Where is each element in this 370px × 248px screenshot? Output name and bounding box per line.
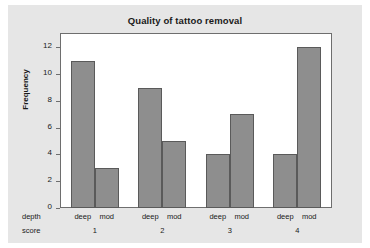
chart-title: Quality of tattoo removal [8,15,362,26]
x-group-label: 4 [277,226,317,235]
y-tick-label: 6 [48,122,52,131]
y-tick-mark [56,47,60,48]
y-tick-mark [56,74,60,75]
bar [206,154,230,208]
x-sublabel: deep [138,212,162,221]
bar [273,154,297,208]
x-sublabel: deep [206,212,230,221]
y-tick-label: 4 [48,148,52,157]
x-sublabel: mod [230,212,254,221]
y-tick-mark [56,208,60,209]
x-group-label: 2 [142,226,182,235]
y-tick: 8 [8,101,60,102]
bar [95,168,119,208]
y-tick-mark [56,128,60,129]
y-tick: 4 [8,154,60,155]
x-group-label: 3 [210,226,250,235]
chart-figure: Quality of tattoo removal Frequency 0246… [8,5,362,243]
bar [297,47,321,208]
row-header-score: score [22,226,40,235]
y-tick-label: 2 [48,175,52,184]
y-tick: 10 [8,74,60,75]
y-tick-mark [56,154,60,155]
row-header-depth: depth [22,212,41,221]
x-group-label: 1 [75,226,115,235]
bar [138,88,162,208]
y-tick-mark [56,101,60,102]
plot-area [61,34,331,208]
x-sublabel: deep [273,212,297,221]
x-sublabel: deep [71,212,95,221]
y-tick: 12 [8,47,60,48]
bar [162,141,186,208]
x-sublabel: mod [162,212,186,221]
x-sublabel: mod [95,212,119,221]
y-tick-label: 10 [43,68,52,77]
y-tick-label: 8 [48,95,52,104]
bar [230,114,254,208]
y-tick: 6 [8,128,60,129]
y-tick: 0 [8,208,60,209]
x-sublabel: mod [297,212,321,221]
y-tick: 2 [8,181,60,182]
bar [71,61,95,208]
y-tick-label: 0 [48,202,52,211]
y-tick-mark [56,181,60,182]
y-tick-label: 12 [43,41,52,50]
